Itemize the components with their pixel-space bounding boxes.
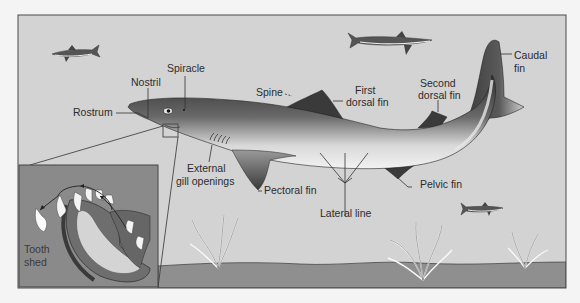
tooth-inset: Tooth shed [19,165,158,287]
label-tooth-shed-1: Tooth [24,243,50,255]
label-pectoral-fin: Pectoral fin [264,184,317,196]
label-spine: Spine [256,86,283,98]
label-tooth-shed-2: shed [24,256,47,268]
label-lateral-line: Lateral line [320,207,372,219]
spiracle-mark [183,109,185,111]
label-second-dorsal-2: dorsal fin [418,89,461,101]
label-nostril: Nostril [131,76,161,88]
label-first-dorsal-2: dorsal fin [346,96,389,108]
label-spiracle: Spiracle [167,62,205,74]
label-caudal-1: Caudal [514,49,547,61]
label-gill-1: External [187,162,226,174]
shark-anatomy-diagram: Tooth shed Rostrum Nostril Sp [0,0,580,303]
label-second-dorsal-1: Second [420,77,456,89]
label-caudal-2: fin [514,62,525,74]
label-rostrum: Rostrum [73,106,113,118]
label-pelvic-fin: Pelvic fin [420,178,462,190]
label-gill-2: gill openings [176,175,234,187]
label-first-dorsal-1: First [355,84,375,96]
